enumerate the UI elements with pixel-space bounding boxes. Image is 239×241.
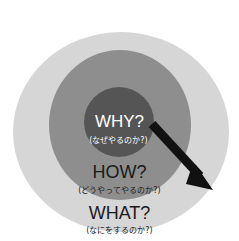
how-label: HOW?	[0, 162, 239, 183]
what-label: WHAT?	[0, 203, 239, 224]
why-sublabel: (なぜやるのか?)	[0, 134, 238, 145]
why-label: WHY?	[0, 112, 239, 132]
how-sublabel: (どうやってやるのか?)	[0, 184, 239, 195]
what-sublabel: (なにをするのか?)	[0, 224, 239, 235]
